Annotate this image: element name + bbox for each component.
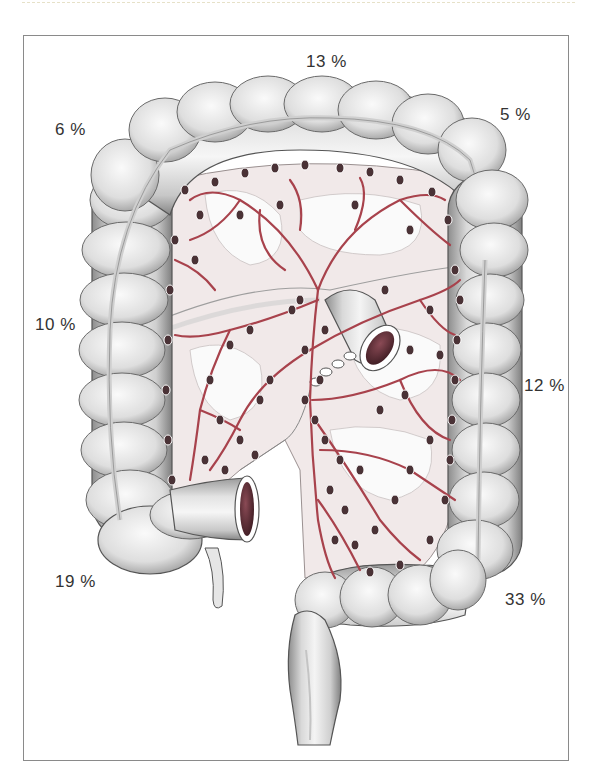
label-cecum-19: 19 % <box>55 572 96 592</box>
appendix <box>205 548 223 608</box>
label-transverse-13: 13 % <box>306 52 347 72</box>
label-splenic-flexure-5: 5 % <box>500 105 531 125</box>
label-hepatic-flexure-6: 6 % <box>55 120 86 140</box>
rectum <box>288 611 341 745</box>
label-descending-12: 12 % <box>524 376 565 396</box>
label-ascending-10: 10 % <box>35 315 76 335</box>
label-sigmoid-33: 33 % <box>505 590 546 610</box>
